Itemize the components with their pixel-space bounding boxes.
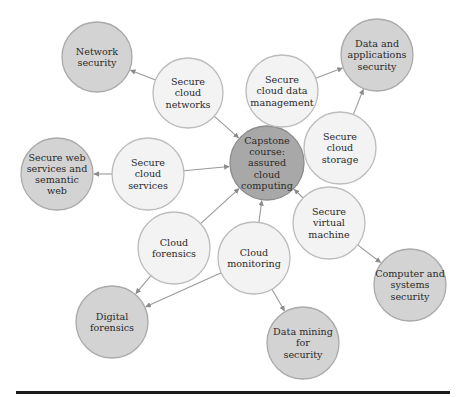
node-secure-cloud-storage: Securecloudstorage [304,112,376,184]
node-secure-cloud-data-management: Securecloud datamanagement [246,55,318,127]
node-label: Securevirtualmachine [308,206,350,239]
node-secure-cloud-networks: Securecloudnetworks [153,58,223,128]
arrow-secure-cloud-networks-to-network-security [131,70,156,80]
arrow-secure-cloud-services-to-capstone [184,167,229,171]
arrow-secure-cloud-data-management-to-data-applications-security [316,68,343,78]
arrow-secure-virtual-machine-to-computer-systems-security [358,245,381,263]
arrow-cloud-forensics-to-digital-forensics [136,276,151,294]
arrow-secure-cloud-storage-to-data-applications-security [353,89,363,114]
node-digital-forensics: Digitalforensics [76,286,148,358]
nodes: Capstonecourse:assuredcloudcomputingNetw… [21,19,446,379]
node-label: Digitalforensics [90,311,134,333]
node-label: Networksecurity [76,46,119,68]
node-network-security: Networksecurity [62,22,132,92]
arrow-secure-cloud-networks-to-capstone [214,116,238,138]
node-label: Securecloudstorage [322,131,359,164]
node-cloud-forensics: Cloudforensics [138,212,210,284]
node-cloud-monitoring: Cloudmonitoring [218,222,290,294]
node-data-mining-security: Data miningforsecurity [267,307,339,379]
arrow-cloud-monitoring-to-data-mining-security [272,289,285,311]
node-secure-cloud-services: Securecloudservices [112,138,184,210]
node-data-applications-security: Data andapplicationssecurity [341,19,413,91]
course-dependency-diagram: Capstonecourse:assuredcloudcomputingNetw… [0,0,466,397]
arrow-cloud-monitoring-to-capstone [259,201,262,223]
arrow-secure-virtual-machine-to-capstone [294,189,303,198]
node-secure-web-services: Secure webservices andsemanticweb [21,138,93,210]
bottom-rule [16,391,450,394]
node-label: Capstonecourse:assuredcloudcomputing [241,135,293,191]
node-secure-virtual-machine: Securevirtualmachine [293,187,365,259]
node-capstone: Capstonecourse:assuredcloudcomputing [230,126,304,200]
arrow-cloud-forensics-to-capstone [201,189,239,224]
node-computer-systems-security: Computer andsystemssecurity [374,249,446,321]
